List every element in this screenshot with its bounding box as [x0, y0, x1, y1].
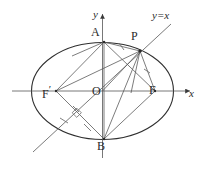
ellipse-geometry-figure: A B P F′ F O y x y=x [0, 0, 205, 169]
segment-A-F-right [104, 42, 155, 91]
segment-F-right-B [104, 91, 155, 139]
prime-mark: ′ [49, 83, 51, 95]
label-focus-left: F′ [42, 84, 51, 100]
point-dot-group [55, 41, 156, 140]
label-line-y-equals-x: y=x [152, 10, 169, 21]
point-dot-P [138, 49, 141, 52]
point-dot-F-left [55, 90, 57, 92]
label-y-axis: y [93, 9, 98, 20]
label-point-B: B [97, 140, 105, 152]
segment-A-chord [72, 42, 104, 56]
label-origin: O [92, 85, 101, 97]
point-dot-A [103, 41, 105, 43]
label-focus-left-letter: F [42, 87, 49, 101]
label-point-A: A [91, 26, 100, 38]
label-point-P: P [131, 30, 138, 42]
label-x-axis: x [189, 88, 194, 99]
segment-group [56, 42, 155, 139]
label-focus-right: F [149, 84, 156, 96]
segment-P-B [104, 51, 140, 139]
